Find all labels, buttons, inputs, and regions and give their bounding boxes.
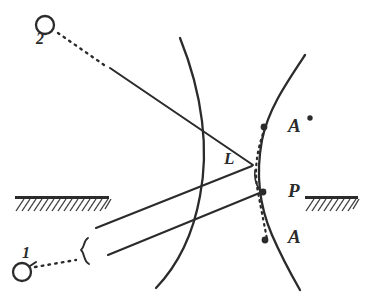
beam-width-brace-icon bbox=[81, 238, 89, 264]
left-wavefront-curve bbox=[156, 38, 204, 288]
hatched-barrier-right bbox=[305, 198, 359, 212]
label-point-P: P bbox=[288, 181, 300, 200]
label-point-A: A bbox=[288, 227, 301, 246]
diagram-svg bbox=[0, 0, 373, 301]
label-source-1: 1 bbox=[22, 245, 30, 261]
barrier-left-hatching bbox=[16, 199, 111, 211]
source-1-stem bbox=[30, 262, 36, 266]
label-source-2: 2 bbox=[36, 31, 44, 47]
node-dot-P bbox=[260, 189, 267, 196]
figure-canvas: A P A L 2 1 bbox=[0, 0, 373, 301]
node-dot-A-prime bbox=[261, 124, 268, 131]
dotted-ray-source-2 bbox=[58, 33, 107, 67]
prime-mark-dot-icon bbox=[307, 115, 312, 120]
source-1-circle-icon bbox=[13, 263, 31, 281]
label-point-A-prime: A bbox=[288, 116, 301, 135]
barrier-right-hatching bbox=[306, 199, 359, 211]
node-dot-A bbox=[262, 237, 269, 244]
dotted-ray-source-1 bbox=[35, 260, 76, 267]
hatched-barrier-left bbox=[15, 198, 111, 212]
ray-1-upper-edge bbox=[96, 166, 252, 228]
right-wavefront-curve bbox=[259, 55, 305, 290]
label-lens-vertex-L: L bbox=[224, 150, 234, 167]
